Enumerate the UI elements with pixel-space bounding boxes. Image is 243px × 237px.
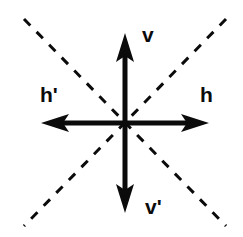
axis-diagram-figure: v v' h h' (0, 0, 243, 237)
axis-label-up: v (142, 24, 154, 45)
axis-label-left: h' (40, 84, 58, 105)
axis-label-down: v' (145, 196, 162, 217)
diagram-canvas (0, 0, 243, 237)
axis-label-right: h (200, 84, 213, 105)
